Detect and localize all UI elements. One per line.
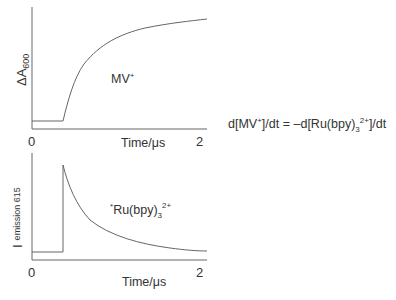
bottom-annotation-ru: *Ru(bpy)32+ (110, 201, 171, 220)
top-curve-mv-plus (32, 19, 207, 121)
bottom-y-label: Iemission 615 (10, 187, 25, 248)
top-y-label: ΔA600 (14, 54, 31, 86)
bottom-chart: Iemission 615 0 2 Time/μs *Ru(bpy)32+ (10, 153, 207, 289)
rate-equation: d[MV+]/dt = –d[Ru(bpy)32+]/dt (228, 116, 386, 134)
eq-rhs-sup: 2+ (360, 116, 369, 125)
figure: ΔA600 0 2 Time/μs MV+ Iemission 615 0 2 … (0, 0, 396, 300)
svg-text:Iemission 615: Iemission 615 (10, 187, 25, 248)
bottom-x-tick-2: 2 (196, 265, 203, 280)
top-x-label: Time/μs (121, 136, 165, 150)
top-annotation-mv: MV+ (111, 71, 135, 86)
top-x-tick-2: 2 (196, 134, 203, 149)
svg-text:ΔA600: ΔA600 (14, 54, 31, 86)
eq-mid: ]/dt = –d[Ru(bpy) (262, 117, 355, 131)
top-x-tick-0: 0 (28, 134, 35, 149)
eq-lhs: d[MV (228, 117, 257, 131)
eq-rhs-post: ]/dt (369, 117, 386, 131)
eq-rhs-sub: 3 (355, 125, 359, 134)
top-chart: ΔA600 0 2 Time/μs MV+ (14, 7, 207, 150)
bottom-x-tick-0: 0 (28, 265, 35, 280)
bottom-x-label: Time/μs (122, 275, 166, 289)
